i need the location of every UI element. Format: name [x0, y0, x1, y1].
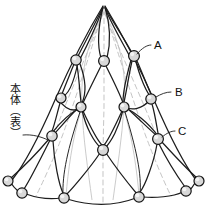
node-r3-right[interactable] [153, 134, 164, 145]
callout-a-leader [137, 45, 151, 54]
row2-row3-strands-group [52, 98, 158, 145]
hem-right [143, 192, 183, 197]
strand-r2right-to-r3center [104, 111, 122, 145]
strand-r3left-to-bmidleft [53, 141, 63, 193]
strand-r2left-to-r3center [83, 111, 102, 145]
strand-r1right-to-r2outerright [137, 61, 151, 94]
hem-left [26, 194, 61, 199]
strand-r1center-to-r2right [106, 66, 123, 103]
callout-b-label: B [175, 86, 183, 98]
node-r2-outer-left[interactable] [56, 93, 66, 103]
strand-r3left-to-bleft [24, 140, 50, 189]
hem-center [67, 198, 136, 204]
node-bottom-far-right[interactable] [194, 176, 204, 186]
strand-r1center-to-r2left [83, 66, 101, 103]
callout-a-label: A [154, 39, 162, 51]
callout-b-leader [156, 92, 171, 97]
node-bottom-right[interactable] [181, 186, 191, 196]
node-r1-right[interactable] [129, 51, 140, 62]
node-bottom-mid-left[interactable] [59, 193, 69, 203]
node-r3-left[interactable] [47, 131, 57, 141]
node-r1-center[interactable] [99, 56, 110, 67]
node-bottom-far-left[interactable] [3, 176, 13, 186]
strand-r3center-to-bmidright [106, 153, 137, 194]
net-structure-drawing: A B C [0, 0, 205, 212]
strand-r2outerleft-to-r3left [52, 103, 60, 131]
node-bottom-mid-right[interactable] [134, 192, 144, 202]
node-r2-right[interactable] [119, 102, 129, 112]
guide-center-vertical [103, 10, 104, 205]
strand-r1left-to-r2left [77, 65, 81, 102]
outer-contour-left [12, 6, 103, 180]
strand-r3right-to-bfarright [161, 141, 197, 178]
strand-r3right-to-bright [159, 144, 185, 187]
node-r2-outer-right[interactable] [146, 94, 156, 104]
body-label-leader [23, 135, 48, 140]
node-r2-left[interactable] [76, 102, 86, 112]
strand-r3center-to-bmidleft [66, 153, 100, 195]
apex-strands-group [77, 7, 132, 59]
guide-lower-right-panel [124, 110, 139, 195]
guide-lines-group [36, 10, 171, 205]
figure-canvas: A B C 本体（表） [0, 0, 205, 212]
node-r3-center[interactable] [98, 145, 109, 156]
strand-r3left-to-bfarleft [11, 139, 49, 178]
callout-b-group: B [156, 86, 183, 98]
node-r1-left[interactable] [71, 55, 81, 65]
body-front-label: 本体（表） [4, 83, 20, 138]
nodes-group [3, 51, 204, 204]
callout-a-group: A [137, 39, 162, 54]
body-label-group [23, 135, 48, 140]
strand-r2right-to-r3right [128, 109, 156, 135]
strand-r3right-to-bmidright [140, 144, 157, 192]
node-bottom-left[interactable] [17, 188, 27, 198]
callout-c-label: C [178, 125, 186, 137]
